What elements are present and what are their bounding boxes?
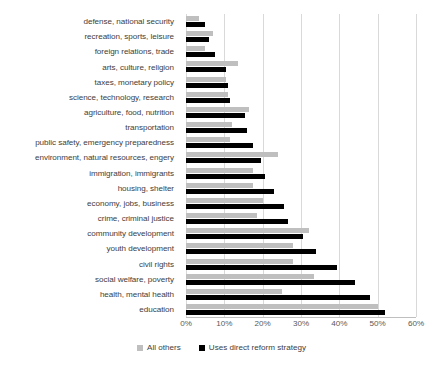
x-tick-label: 20%: [255, 319, 271, 328]
bar-uses-direct-reform-strategy: [186, 52, 215, 57]
bar-row: [186, 150, 416, 165]
bar-chart: defense, national securityrecreation, sp…: [0, 0, 443, 372]
bar-all-others: [186, 107, 249, 112]
legend-label: Uses direct reform strategy: [209, 343, 306, 352]
plot-area: [186, 14, 416, 317]
bar-all-others: [186, 259, 293, 264]
bar-uses-direct-reform-strategy: [186, 265, 337, 270]
category-label: public safety, emergency preparedness: [0, 135, 180, 150]
bar-uses-direct-reform-strategy: [186, 234, 303, 239]
bar-all-others: [186, 304, 378, 309]
bar-uses-direct-reform-strategy: [186, 189, 274, 194]
bar-all-others: [186, 168, 253, 173]
category-label: immigration, immigrants: [0, 166, 180, 181]
legend-label: All others: [147, 343, 181, 352]
bar-all-others: [186, 46, 205, 51]
category-label: health, mental health: [0, 287, 180, 302]
bar-row: [186, 211, 416, 226]
bar-uses-direct-reform-strategy: [186, 37, 209, 42]
bar-all-others: [186, 213, 257, 218]
legend-item[interactable]: All others: [137, 343, 181, 352]
legend-swatch-icon: [199, 345, 205, 351]
bar-rows: [186, 14, 416, 317]
bar-row: [186, 135, 416, 150]
bar-row: [186, 29, 416, 44]
legend-swatch-icon: [137, 345, 143, 351]
bar-row: [186, 75, 416, 90]
category-label: defense, national security: [0, 14, 180, 29]
bar-row: [186, 226, 416, 241]
category-label: taxes, monetary policy: [0, 75, 180, 90]
chart-legend: All othersUses direct reform strategy: [0, 343, 443, 352]
category-label: crime, criminal justice: [0, 211, 180, 226]
bar-all-others: [186, 122, 232, 127]
category-label: foreign relations, trade: [0, 44, 180, 59]
bar-row: [186, 59, 416, 74]
bar-all-others: [186, 16, 199, 21]
bar-row: [186, 120, 416, 135]
bar-uses-direct-reform-strategy: [186, 174, 265, 179]
bar-uses-direct-reform-strategy: [186, 128, 247, 133]
category-label: housing, shelter: [0, 181, 180, 196]
bar-all-others: [186, 228, 309, 233]
bar-all-others: [186, 289, 282, 294]
bar-all-others: [186, 243, 293, 248]
category-label: environment, natural resources, engery: [0, 150, 180, 165]
bar-uses-direct-reform-strategy: [186, 158, 261, 163]
bar-uses-direct-reform-strategy: [186, 310, 385, 315]
x-tick-label: 40%: [331, 319, 347, 328]
bar-uses-direct-reform-strategy: [186, 219, 288, 224]
bar-row: [186, 272, 416, 287]
bar-row: [186, 196, 416, 211]
bar-uses-direct-reform-strategy: [186, 280, 355, 285]
category-label: transportation: [0, 120, 180, 135]
category-label: community development: [0, 226, 180, 241]
bar-uses-direct-reform-strategy: [186, 98, 230, 103]
bar-uses-direct-reform-strategy: [186, 113, 245, 118]
bar-all-others: [186, 92, 228, 97]
category-label: economy, jobs, business: [0, 196, 180, 211]
x-tick-label: 30%: [293, 319, 309, 328]
x-tick-label: 60%: [408, 319, 424, 328]
x-tick-label: 50%: [370, 319, 386, 328]
x-axis-tick-labels: 0%10%20%30%40%50%60%: [186, 319, 416, 333]
bar-uses-direct-reform-strategy: [186, 295, 370, 300]
bar-all-others: [186, 152, 278, 157]
category-axis-labels: defense, national securityrecreation, sp…: [0, 14, 180, 317]
bar-row: [186, 302, 416, 317]
x-tick-label: 0%: [180, 319, 192, 328]
bar-row: [186, 257, 416, 272]
legend-item[interactable]: Uses direct reform strategy: [199, 343, 306, 352]
bar-uses-direct-reform-strategy: [186, 83, 228, 88]
bar-row: [186, 181, 416, 196]
category-label: recreation, sports, leisure: [0, 29, 180, 44]
bar-row: [186, 241, 416, 256]
bar-uses-direct-reform-strategy: [186, 67, 226, 72]
bar-all-others: [186, 31, 213, 36]
bar-all-others: [186, 183, 253, 188]
bar-row: [186, 105, 416, 120]
bar-all-others: [186, 77, 226, 82]
gridline: [416, 14, 417, 317]
category-label: civil rights: [0, 257, 180, 272]
bar-uses-direct-reform-strategy: [186, 249, 316, 254]
category-label: arts, culture, religion: [0, 59, 180, 74]
x-tick-label: 10%: [216, 319, 232, 328]
bar-all-others: [186, 61, 238, 66]
bar-row: [186, 14, 416, 29]
bar-uses-direct-reform-strategy: [186, 22, 205, 27]
bar-all-others: [186, 198, 263, 203]
bar-row: [186, 287, 416, 302]
bar-row: [186, 166, 416, 181]
bar-uses-direct-reform-strategy: [186, 204, 284, 209]
category-label: agriculture, food, nutrition: [0, 105, 180, 120]
bar-row: [186, 44, 416, 59]
bar-all-others: [186, 137, 230, 142]
x-axis-line: [186, 317, 416, 318]
bar-uses-direct-reform-strategy: [186, 143, 253, 148]
bar-all-others: [186, 274, 314, 279]
category-label: social welfare, poverty: [0, 272, 180, 287]
category-label: education: [0, 302, 180, 317]
category-label: science, technology, research: [0, 90, 180, 105]
bar-row: [186, 90, 416, 105]
